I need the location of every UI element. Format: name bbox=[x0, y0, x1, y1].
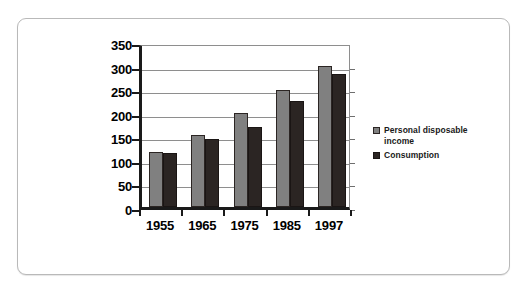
x-axis-tick-mark bbox=[308, 210, 310, 216]
y-axis-tick-label: 250 bbox=[96, 86, 132, 99]
y-axis-tick-mark bbox=[132, 45, 139, 47]
right-edge-tick-mark bbox=[350, 92, 355, 93]
y-axis-tick-label: 100 bbox=[96, 156, 132, 169]
x-axis-category-label: 1997 bbox=[299, 219, 359, 232]
y-axis-tick-mark bbox=[132, 69, 139, 71]
y-axis-labels: 050100150200250300350 bbox=[96, 45, 132, 210]
bar-chart-figure: 050100150200250300350 195519651975198519… bbox=[18, 19, 511, 276]
legend-label-series-1: Personal disposable income bbox=[384, 125, 496, 147]
bar-1965-series-2 bbox=[205, 139, 219, 207]
y-axis-tick-mark bbox=[132, 92, 139, 94]
chart-card: 050100150200250300350 195519651975198519… bbox=[17, 18, 510, 275]
legend-item-personal-disposable-income: Personal disposable income bbox=[373, 125, 505, 147]
y-axis-tick-mark bbox=[132, 186, 139, 188]
bar-1975-series-2 bbox=[248, 127, 262, 207]
plot-area bbox=[139, 45, 350, 210]
right-edge-tick-mark bbox=[350, 69, 355, 70]
y-axis-tick-label: 300 bbox=[96, 62, 132, 75]
y-axis-tick-label: 150 bbox=[96, 133, 132, 146]
y-axis-tick-mark bbox=[132, 139, 139, 141]
bar-1965-series-1 bbox=[191, 135, 205, 207]
legend-swatch-icon-series-2 bbox=[373, 152, 380, 159]
right-edge-tick-mark bbox=[350, 186, 355, 187]
bar-1955-series-2 bbox=[163, 153, 177, 207]
y-axis-tick-label: 50 bbox=[96, 180, 132, 193]
bar-1997-series-2 bbox=[332, 74, 346, 207]
chart-legend: Personal disposable income Consumption bbox=[373, 125, 505, 164]
bar-1975-series-1 bbox=[234, 113, 248, 207]
x-axis-tick-mark bbox=[181, 210, 183, 216]
bar-1985-series-1 bbox=[276, 90, 290, 207]
legend-swatch-icon-series-1 bbox=[373, 127, 380, 134]
right-edge-tick-mark bbox=[350, 163, 355, 164]
y-axis-tick-mark bbox=[132, 116, 139, 118]
x-axis-tick-mark bbox=[266, 210, 268, 216]
x-axis-tick-mark bbox=[350, 210, 352, 216]
right-edge-tick-mark bbox=[350, 116, 355, 117]
legend-label-series-2: Consumption bbox=[384, 150, 439, 161]
y-axis-tick-mark bbox=[132, 210, 139, 212]
y-axis-tick-label: 0 bbox=[96, 204, 132, 217]
x-axis-tick-mark bbox=[139, 210, 141, 216]
right-edge-tick-mark bbox=[350, 139, 355, 140]
bar-1997-series-1 bbox=[318, 66, 332, 207]
x-axis-tick-mark bbox=[223, 210, 225, 216]
bar-1955-series-1 bbox=[149, 152, 163, 207]
bar-group-container bbox=[142, 46, 349, 207]
screenshot-root: 050100150200250300350 195519651975198519… bbox=[0, 0, 527, 293]
y-axis-tick-label: 200 bbox=[96, 109, 132, 122]
legend-item-consumption: Consumption bbox=[373, 150, 505, 161]
bar-1985-series-2 bbox=[290, 101, 304, 207]
y-axis-tick-mark bbox=[132, 163, 139, 165]
y-axis-tick-label: 350 bbox=[96, 39, 132, 52]
